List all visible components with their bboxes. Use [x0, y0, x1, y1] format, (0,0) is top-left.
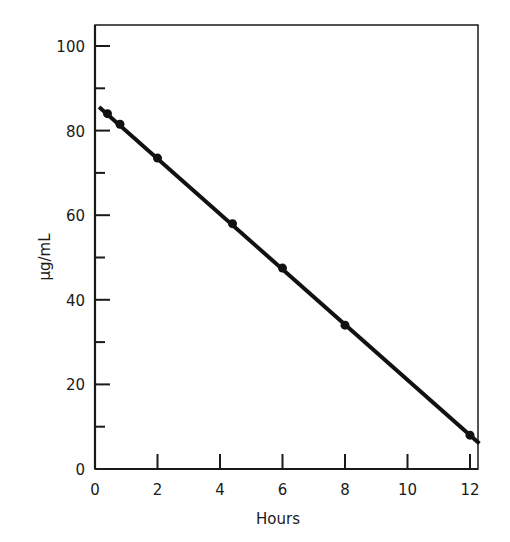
- y-tick-label: 40: [66, 292, 85, 310]
- y-axis-title: μg/mL: [36, 233, 54, 281]
- line-chart: 020406080100 024681012 Hours μg/mL: [0, 0, 510, 542]
- x-tick-label: 8: [340, 481, 350, 499]
- data-point: [228, 219, 237, 228]
- y-tick-label: 20: [66, 376, 85, 394]
- data-point: [341, 321, 350, 330]
- y-axis-ticks: 020406080100: [56, 38, 110, 479]
- data-point: [278, 264, 287, 273]
- x-axis-ticks: 024681012: [90, 454, 479, 499]
- y-tick-label: 80: [66, 123, 85, 141]
- x-tick-label: 10: [398, 481, 417, 499]
- data-point: [153, 154, 162, 163]
- data-point: [103, 109, 112, 118]
- x-tick-label: 2: [153, 481, 163, 499]
- x-tick-label: 6: [278, 481, 288, 499]
- y-tick-label: 100: [56, 38, 85, 56]
- y-tick-label: 0: [75, 461, 85, 479]
- data-point: [116, 120, 125, 129]
- x-tick-label: 0: [90, 481, 100, 499]
- y-tick-label: 60: [66, 207, 85, 225]
- plot-frame: [95, 25, 478, 469]
- x-tick-label: 4: [215, 481, 225, 499]
- x-tick-label: 12: [460, 481, 479, 499]
- data-point: [466, 431, 475, 440]
- x-axis-title: Hours: [256, 510, 300, 528]
